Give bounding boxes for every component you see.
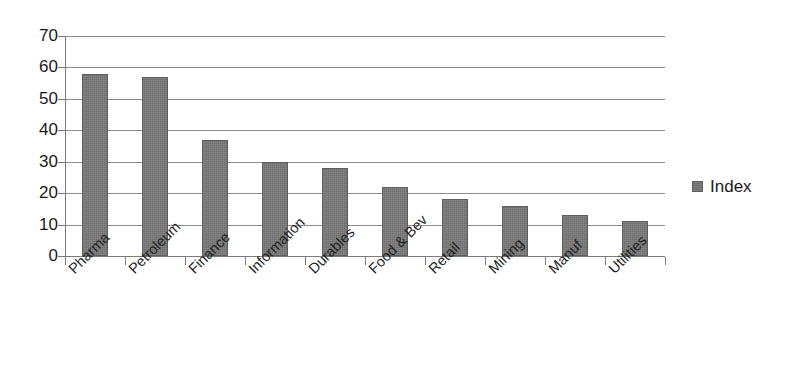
y-axis-tick (58, 130, 65, 131)
y-axis-tick (58, 256, 65, 257)
y-axis-tick (58, 225, 65, 226)
y-axis-tick (58, 162, 65, 163)
bar-slot (305, 36, 365, 256)
bar[interactable] (82, 74, 108, 256)
y-axis-tick-label: 70 (18, 27, 58, 44)
legend-label: Index (710, 178, 752, 195)
bar-slot (485, 36, 545, 256)
y-axis-tick-label: 30 (18, 153, 58, 170)
y-axis-tick-label: 40 (18, 121, 58, 138)
bar-slot (185, 36, 245, 256)
y-axis-tick (58, 99, 65, 100)
y-axis-tick (58, 36, 65, 37)
filled-square-marker-icon (692, 181, 703, 192)
bar-chart: 706050403020100 PharmaPetroleumFinanceIn… (0, 0, 788, 368)
bar-slot (65, 36, 125, 256)
bar-slot (425, 36, 485, 256)
x-axis-tick (665, 257, 666, 265)
y-axis-tick-label: 10 (18, 216, 58, 233)
y-axis-tick-label: 20 (18, 184, 58, 201)
y-axis-tick-label: 60 (18, 58, 58, 75)
y-axis-tick (58, 67, 65, 68)
y-axis-tick-label: 50 (18, 90, 58, 107)
legend: Index (692, 178, 752, 195)
y-axis-tick-label: 0 (18, 247, 58, 264)
bar-slot (545, 36, 605, 256)
bar-slot (605, 36, 665, 256)
y-axis-tick (58, 193, 65, 194)
bars-layer (65, 36, 665, 256)
